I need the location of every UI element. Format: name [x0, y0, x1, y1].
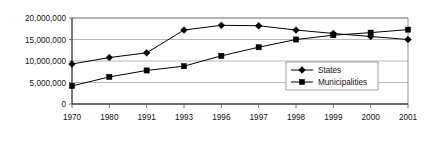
chart-canvas: 05,000,00010,000,00015,000,00020,000,000… — [0, 0, 432, 144]
x-axis-tick-label: 2000 — [362, 113, 381, 122]
x-axis-tick-label: 1996 — [212, 113, 231, 122]
series-municipalities-square-marker — [181, 64, 186, 69]
x-axis-tick-label: 1999 — [324, 113, 343, 122]
y-axis-tick-label: 15,000,000 — [25, 36, 66, 45]
series-municipalities-square-marker — [256, 45, 261, 50]
series-states-diamond-marker — [255, 22, 262, 29]
series-states-diamond-marker — [143, 49, 150, 56]
y-axis-tick-labels: 05,000,00010,000,00015,000,00020,000,000 — [25, 14, 72, 109]
series-municipalities-square-marker — [107, 74, 112, 79]
y-axis-tick-label: 10,000,000 — [25, 57, 66, 66]
legend-label-0: States — [318, 66, 341, 75]
x-axis-tick-label: 1993 — [175, 113, 194, 122]
series-states-diamond-marker — [69, 61, 76, 68]
x-axis-tick-label: 1980 — [100, 113, 119, 122]
gridlines — [72, 18, 408, 104]
legend-label-1: Municipalities — [318, 78, 367, 87]
series-states-diamond-marker — [218, 22, 225, 29]
series-states-diamond-marker — [293, 27, 300, 34]
series-states-diamond-marker — [106, 54, 113, 61]
y-axis-tick-label: 5,000,000 — [30, 79, 67, 88]
x-axis-tick-labels: 1970198019911993199619971998199920002001 — [63, 113, 418, 122]
line-chart: 05,000,00010,000,00015,000,00020,000,000… — [0, 0, 432, 144]
x-axis-tick-label: 1998 — [287, 113, 306, 122]
series-municipalities-square-marker — [144, 68, 149, 73]
y-axis-tick-label: 20,000,000 — [25, 14, 66, 23]
series-municipalities-square-marker — [219, 53, 224, 58]
series-municipalities-square-marker — [405, 27, 410, 32]
legend-1-square-marker — [299, 79, 304, 84]
series-states-diamond-marker — [405, 36, 412, 43]
x-axis-tick-label: 1991 — [138, 113, 157, 122]
x-axis-tick-label: 2001 — [399, 113, 418, 122]
x-axis-tick-label: 1970 — [63, 113, 82, 122]
series-line-states — [72, 25, 408, 64]
y-axis-tick-label: 0 — [61, 100, 66, 109]
series-states-diamond-marker — [181, 27, 188, 34]
chart-legend: StatesMunicipalities — [286, 62, 378, 90]
x-axis-tickmarks — [72, 104, 408, 108]
series-municipalities-square-marker — [293, 37, 298, 42]
x-axis-tick-label: 1997 — [250, 113, 269, 122]
series-municipalities-square-marker — [69, 83, 74, 88]
series-municipalities-square-marker — [368, 30, 373, 35]
series-municipalities-square-marker — [331, 33, 336, 38]
